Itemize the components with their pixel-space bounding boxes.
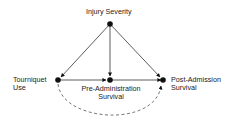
node-injury-severity [107,21,113,27]
label-tourniquet-line2: Use [13,84,47,92]
edge-injury-to-post [110,24,160,77]
label-injury-severity: Injury Severity [86,8,132,16]
label-post-admission-survival: Post-Admission Survival [171,76,221,93]
label-pre-line2: Survival [78,93,144,101]
node-post-admission-survival [160,77,166,83]
causal-diagram [0,0,238,132]
label-post-line2: Survival [171,84,221,92]
label-tourniquet-use: Tourniquet Use [13,76,47,93]
node-pre-administration-survival [107,77,113,83]
edge-injury-to-tourniquet [61,24,110,77]
node-tourniquet-use [55,77,61,83]
label-pre-administration-survival: Pre-Administration Survival [78,85,144,102]
